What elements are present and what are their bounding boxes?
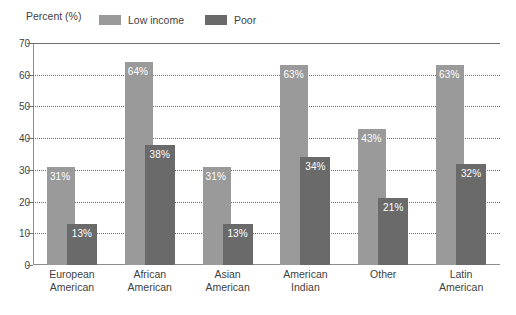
axis-line-bottom bbox=[33, 264, 500, 265]
legend-item-poor: Poor bbox=[205, 10, 256, 24]
y-axis-tick bbox=[27, 106, 33, 107]
gridline bbox=[33, 75, 500, 76]
legend-label-low-income: Low income bbox=[128, 14, 184, 26]
x-axis-category-label: EuropeanAmerican bbox=[33, 268, 111, 294]
y-axis-tick bbox=[27, 43, 33, 44]
bar-value-label: 34% bbox=[300, 161, 330, 172]
x-axis-category-label: AsianAmerican bbox=[189, 268, 267, 294]
x-axis-category-label: LatinAmerican bbox=[422, 268, 500, 294]
gridline bbox=[33, 170, 500, 171]
bar-value-label: 13% bbox=[223, 228, 253, 239]
x-axis-labels: EuropeanAmericanAfricanAmericanAsianAmer… bbox=[33, 268, 500, 308]
bar-value-label: 31% bbox=[203, 171, 231, 182]
bar-poor: 13% bbox=[67, 224, 97, 265]
bar-value-label: 63% bbox=[280, 69, 308, 80]
bar-value-label: 31% bbox=[47, 171, 75, 182]
bar-value-label: 64% bbox=[125, 66, 153, 77]
legend-swatch-low-income bbox=[99, 15, 121, 25]
bar-group: 31%13% bbox=[47, 43, 97, 265]
chart-legend: Percent (%) Low income Poor bbox=[0, 8, 516, 30]
bar-group: 31%13% bbox=[203, 43, 253, 265]
bar-value-label: 63% bbox=[436, 69, 464, 80]
y-axis-tick bbox=[27, 202, 33, 203]
legend-label-poor: Poor bbox=[234, 14, 256, 26]
x-axis-category-label: AmericanIndian bbox=[267, 268, 345, 294]
plot-area: 31%13%64%38%31%13%63%34%43%21%63%32% bbox=[33, 43, 500, 265]
x-axis-category-label: AfricanAmerican bbox=[111, 268, 189, 294]
y-axis-tick bbox=[27, 170, 33, 171]
bar-poor: 13% bbox=[223, 224, 253, 265]
axis-line-left bbox=[33, 43, 34, 265]
bar-poor: 38% bbox=[145, 145, 175, 266]
bar-chart: Percent (%) Low income Poor 706050403020… bbox=[0, 0, 516, 315]
gridline bbox=[33, 202, 500, 203]
gridline bbox=[33, 43, 500, 44]
bar-value-label: 43% bbox=[358, 133, 386, 144]
bar-value-label: 32% bbox=[456, 168, 486, 179]
bar-poor: 32% bbox=[456, 164, 486, 265]
gridline bbox=[33, 138, 500, 139]
bar-group: 64%38% bbox=[125, 43, 175, 265]
bar-value-label: 38% bbox=[145, 149, 175, 160]
bar-value-label: 21% bbox=[378, 202, 408, 213]
legend-item-low-income: Low income bbox=[99, 10, 184, 24]
y-axis: 706050403020100 bbox=[0, 43, 30, 265]
y-axis-tick bbox=[27, 265, 33, 266]
bar-group: 43%21% bbox=[358, 43, 408, 265]
gridline bbox=[33, 233, 500, 234]
gridline bbox=[33, 106, 500, 107]
bar-group: 63%34% bbox=[280, 43, 330, 265]
y-axis-title: Percent (%) bbox=[26, 10, 81, 22]
bar-value-label: 13% bbox=[67, 228, 97, 239]
x-axis-category-label: Other bbox=[344, 268, 422, 281]
legend-swatch-poor bbox=[205, 15, 227, 25]
bar-poor: 21% bbox=[378, 198, 408, 265]
bar-group: 63%32% bbox=[436, 43, 486, 265]
y-axis-tick bbox=[27, 138, 33, 139]
y-axis-tick bbox=[27, 75, 33, 76]
y-axis-tick bbox=[27, 233, 33, 234]
bar-poor: 34% bbox=[300, 157, 330, 265]
